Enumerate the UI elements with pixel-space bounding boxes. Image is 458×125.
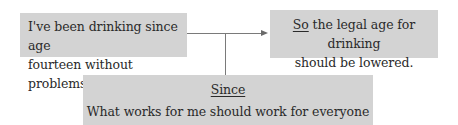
warrant-box: Since What works for me should work for … bbox=[83, 75, 373, 125]
claim-line-1: So the legal age for drinking bbox=[270, 15, 438, 53]
claim-connective: So bbox=[293, 17, 309, 32]
claim-line-2: should be lowered. bbox=[270, 53, 438, 72]
claim-box: So the legal age for drinking should be … bbox=[270, 10, 438, 58]
connector-vertical bbox=[225, 33, 226, 75]
arrowhead-icon bbox=[261, 30, 268, 36]
reason-box: I've been drinking since age fourteen wi… bbox=[20, 13, 187, 57]
claim-line-1-rest: the legal age for drinking bbox=[313, 17, 416, 51]
warrant-connective: Since bbox=[211, 80, 246, 99]
reason-line-1: I've been drinking since age bbox=[28, 17, 187, 55]
warrant-text: What works for me should work for everyo… bbox=[83, 102, 373, 125]
